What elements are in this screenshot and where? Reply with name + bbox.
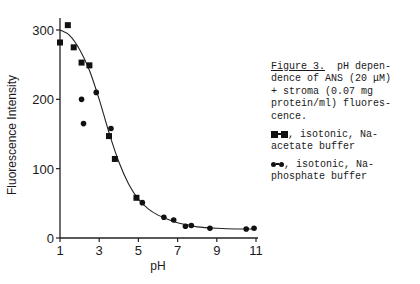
data-point-circle	[207, 225, 213, 231]
figure-caption: Figure 3. pH depen-dence of ANS (20 μM)+…	[271, 48, 420, 197]
x-tick-label: 11	[249, 243, 263, 258]
data-point-square	[133, 195, 139, 201]
caption-text-5: cence.	[271, 111, 420, 124]
data-point-circle	[189, 223, 195, 229]
data-point-square	[71, 44, 77, 50]
y-axis-label: Fluorescence Intensity	[5, 75, 19, 195]
data-point-square	[86, 62, 92, 68]
legend-phosphate-text-2: phosphate buffer	[271, 171, 420, 184]
fit-curve	[60, 30, 256, 229]
data-point-square	[106, 133, 112, 139]
x-tick-label: 5	[135, 243, 142, 258]
x-tick-label: 9	[213, 243, 220, 258]
data-point-square	[79, 60, 85, 66]
data-point-circle	[79, 97, 85, 103]
data-point-circle	[243, 226, 249, 232]
data-point-square	[57, 39, 63, 45]
caption-text-4: protein/ml) fluores-	[271, 98, 420, 111]
data-point-circle	[140, 200, 146, 206]
legend-phosphate-text: , isotonic, Na-	[284, 159, 374, 170]
fit-curve-group	[60, 30, 256, 229]
caption-text-2: dence of ANS (20 μM)	[271, 73, 420, 86]
axes: 13579110100200300	[32, 18, 262, 258]
data-point-circle	[108, 126, 114, 132]
y-tick-label: 100	[32, 162, 54, 177]
legend-acetate-text: , isotonic, Na-	[288, 129, 378, 140]
legend-entry-phosphate: , isotonic, Na-	[271, 159, 420, 172]
y-tick-label: 200	[32, 92, 54, 107]
data-point-circle	[251, 225, 257, 231]
figure-label: Figure 3.	[271, 61, 325, 72]
data-point-circle	[93, 90, 99, 96]
data-point-square	[65, 22, 71, 28]
legend-entry-acetate: , isotonic, Na-	[271, 129, 420, 142]
data-point-circle	[81, 121, 87, 127]
legend-acetate-text-2: acetate buffer	[271, 141, 420, 154]
data-point-circle	[171, 217, 177, 223]
data-point-circle	[183, 223, 189, 229]
data-point-circle	[161, 214, 167, 220]
x-tick-label: 1	[56, 243, 63, 258]
x-axis-label: pH	[150, 259, 165, 273]
caption-text-3: + stroma (0.07 mg	[271, 86, 420, 99]
y-tick-label: 300	[32, 23, 54, 38]
y-tick-label: 0	[47, 231, 54, 246]
square-marker-icon	[281, 131, 288, 138]
x-tick-label: 3	[96, 243, 103, 258]
data-point-square	[112, 156, 118, 162]
square-marker-icon	[271, 131, 278, 138]
caption-text-1: pH depen-	[325, 61, 391, 72]
x-tick-label: 7	[174, 243, 181, 258]
points-group	[57, 22, 257, 232]
